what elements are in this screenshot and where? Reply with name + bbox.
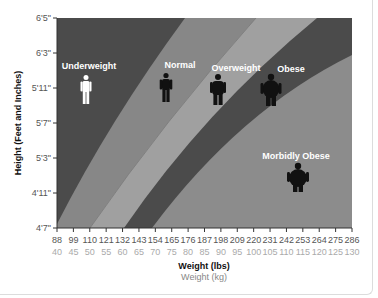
- x-ticks: 8840994511050121551326014365154701657517…: [52, 228, 360, 257]
- plot-area: [57, 18, 352, 228]
- label-overweight: Overweight: [211, 63, 260, 73]
- x-tick-label-kg: 120: [312, 247, 327, 257]
- x-tick-label-lbs: 275: [328, 235, 343, 245]
- x-tick-label-kg: 80: [183, 247, 193, 257]
- x-tick-label-lbs: 198: [213, 235, 228, 245]
- x-tick-label-kg: 85: [199, 247, 209, 257]
- x-axis-subtitle: Weight (kg): [181, 272, 227, 282]
- x-tick-label-lbs: 143: [131, 235, 146, 245]
- x-tick-label-kg: 40: [52, 247, 62, 257]
- x-tick-label-kg: 50: [85, 247, 95, 257]
- x-axis-title: Weight (lbs): [178, 261, 229, 271]
- x-tick-label-lbs: 253: [295, 235, 310, 245]
- label-normal: Normal: [164, 60, 195, 70]
- x-tick-label-lbs: 165: [164, 235, 179, 245]
- y-tick-label: 4'7": [36, 223, 51, 233]
- y-tick-label: 4'11": [32, 188, 51, 198]
- x-tick-label-kg: 70: [150, 247, 160, 257]
- x-tick-label-kg: 60: [118, 247, 128, 257]
- x-tick-label-lbs: 220: [246, 235, 261, 245]
- x-tick-label-kg: 115: [296, 247, 310, 257]
- x-tick-label-kg: 75: [167, 247, 177, 257]
- x-tick-label-lbs: 176: [181, 235, 196, 245]
- y-axis-title: Height (Feet and Inches): [13, 71, 23, 176]
- y-tick-label: 5'11": [32, 83, 51, 93]
- x-tick-label-lbs: 99: [68, 235, 78, 245]
- x-tick-label-kg: 90: [216, 247, 226, 257]
- x-tick-label-kg: 110: [279, 247, 293, 257]
- x-tick-label-kg: 125: [328, 247, 343, 257]
- label-obese: Obese: [277, 64, 305, 74]
- x-tick-label-kg: 105: [263, 247, 278, 257]
- x-tick-label-kg: 65: [134, 247, 144, 257]
- x-tick-label-lbs: 231: [263, 235, 278, 245]
- y-ticks: 6'5" 6'3" 5'11" 5'7" 5'3" 4'11" 4'7": [32, 13, 57, 233]
- x-tick-label-kg: 45: [68, 247, 78, 257]
- y-tick-label: 5'7": [36, 118, 51, 128]
- x-tick-label-kg: 100: [246, 247, 261, 257]
- x-tick-label-lbs: 110: [83, 235, 97, 245]
- label-morbidly-obese: Morbidly Obese: [262, 151, 330, 161]
- x-tick-label-lbs: 88: [52, 235, 62, 245]
- y-tick-label: 5'3": [36, 153, 51, 163]
- x-tick-label-lbs: 209: [230, 235, 245, 245]
- y-tick-label: 6'3": [36, 48, 51, 58]
- x-tick-label-kg: 130: [344, 247, 359, 257]
- bmi-chart: 6'5" 6'3" 5'11" 5'7" 5'3" 4'11" 4'7" 884…: [0, 0, 378, 298]
- x-tick-label-lbs: 264: [312, 235, 327, 245]
- x-tick-label-lbs: 121: [99, 235, 114, 245]
- x-tick-label-kg: 55: [101, 247, 111, 257]
- x-tick-label-lbs: 187: [197, 235, 212, 245]
- x-tick-label-lbs: 132: [115, 235, 130, 245]
- x-tick-label-lbs: 242: [279, 235, 294, 245]
- x-tick-label-lbs: 286: [344, 235, 359, 245]
- label-underweight: Underweight: [62, 61, 117, 71]
- y-tick-label: 6'5": [36, 13, 51, 23]
- x-tick-label-kg: 95: [232, 247, 242, 257]
- x-tick-label-lbs: 154: [148, 235, 163, 245]
